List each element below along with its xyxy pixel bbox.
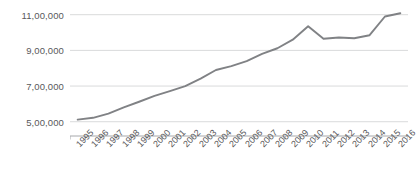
line-chart: 5,00,0007,00,0009,00,00011,00,000 199519… — [0, 0, 420, 180]
x-axis-tick-labels: 1995199619971998199920002001200220032004… — [0, 0, 420, 180]
